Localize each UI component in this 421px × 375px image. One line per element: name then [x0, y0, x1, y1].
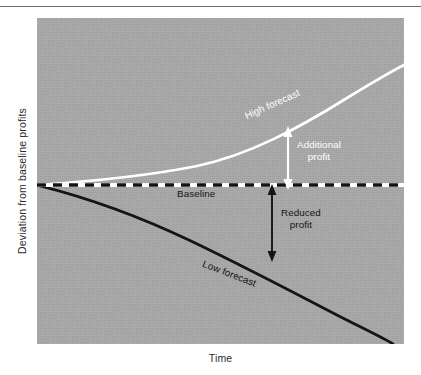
- reduced-profit-label-line1: Reduced: [281, 207, 321, 219]
- baseline-label: Baseline: [177, 188, 215, 200]
- additional-profit-label-line1: Additional: [297, 139, 341, 151]
- reduced-profit-label: Reduced profit: [281, 207, 321, 230]
- series-line-high-forecast: [37, 65, 404, 185]
- additional-profit-label: Additional profit: [297, 139, 341, 162]
- reduced-profit-arrow: [268, 184, 277, 262]
- additional-profit-label-line2: profit: [297, 151, 341, 163]
- plot-area: [37, 18, 404, 344]
- y-axis-label: Deviation from baseline profits: [11, 18, 33, 344]
- x-axis-label: Time: [37, 352, 404, 364]
- forecast-deviation-chart: Baseline High forecast Low forecast Addi…: [0, 0, 421, 375]
- chart-vector-layer: [37, 18, 404, 344]
- reduced-profit-label-line2: profit: [281, 219, 321, 231]
- additional-profit-arrow: [283, 126, 292, 190]
